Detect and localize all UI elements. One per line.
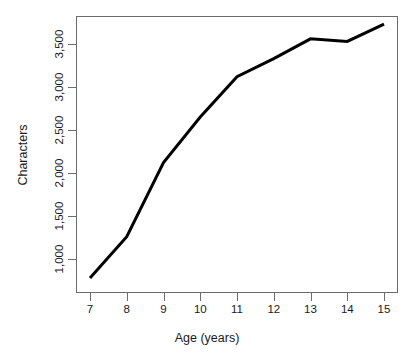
y-tick-label: 1,500 xyxy=(54,202,66,231)
x-tick-label: 11 xyxy=(222,304,252,316)
y-tick-label: 3,000 xyxy=(54,73,66,102)
x-tick-mark xyxy=(164,293,165,301)
x-tick-mark xyxy=(90,293,91,301)
x-tick-label: 7 xyxy=(75,304,105,316)
y-tick-mark xyxy=(68,173,76,174)
y-tick-label: 2,000 xyxy=(54,159,66,188)
x-tick-mark xyxy=(384,293,385,301)
y-axis-title: Characters xyxy=(16,124,30,185)
y-axis: 1,0001,5002,0002,5003,0003,500 xyxy=(0,0,76,360)
line-series-characters xyxy=(90,24,384,278)
y-tick-label: 1,000 xyxy=(54,245,66,274)
x-tick-label: 15 xyxy=(369,304,399,316)
y-tick-label: 3,500 xyxy=(54,30,66,59)
x-tick-label: 14 xyxy=(332,304,362,316)
y-tick-label: 2,500 xyxy=(54,116,66,145)
x-tick-mark xyxy=(311,293,312,301)
x-tick-label: 8 xyxy=(112,304,142,316)
chart-screenshot: 1,0001,5002,0002,5003,0003,500 Character… xyxy=(0,0,414,360)
y-tick-mark xyxy=(68,259,76,260)
x-tick-mark xyxy=(200,293,201,301)
y-tick-mark xyxy=(68,44,76,45)
y-axis-title-holder: Characters xyxy=(14,0,32,310)
x-tick-label: 13 xyxy=(296,304,326,316)
x-tick-mark xyxy=(237,293,238,301)
y-tick-mark xyxy=(68,87,76,88)
x-tick-mark xyxy=(274,293,275,301)
x-tick-label: 9 xyxy=(149,304,179,316)
x-axis-title: Age (years) xyxy=(0,331,414,345)
line-series-layer xyxy=(76,16,398,293)
x-tick-mark xyxy=(347,293,348,301)
x-tick-label: 12 xyxy=(259,304,289,316)
x-tick-mark xyxy=(127,293,128,301)
x-tick-label: 10 xyxy=(185,304,215,316)
y-tick-mark xyxy=(68,130,76,131)
y-tick-mark xyxy=(68,216,76,217)
